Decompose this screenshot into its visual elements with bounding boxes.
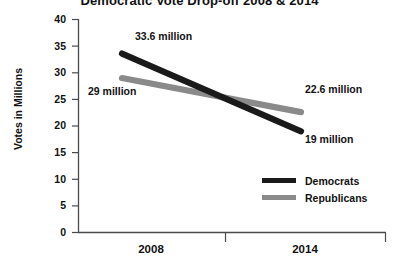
x-axis-ticks <box>226 233 386 243</box>
data-label-republicans-2014: 22.6 million <box>305 83 362 95</box>
y-tick-label-25: 25 <box>34 93 66 105</box>
legend-label-republicans: Republicans <box>305 192 367 204</box>
legend-item-democrats: Democrats <box>262 172 367 189</box>
y-tick-label-35: 35 <box>34 40 66 52</box>
series-line-democrats <box>122 54 301 132</box>
y-tick-label-30: 30 <box>34 66 66 78</box>
y-tick-label-20: 20 <box>34 119 66 131</box>
y-tick-label-5: 5 <box>34 199 66 211</box>
data-label-democrats-2014: 19 million <box>305 133 353 145</box>
legend: Democrats Republicans <box>262 172 367 206</box>
data-label-republicans-2008: 29 million <box>88 85 136 97</box>
x-tick-label-2008: 2008 <box>121 243 181 255</box>
legend-item-republicans: Republicans <box>262 189 367 206</box>
y-tick-label-0: 0 <box>34 226 66 238</box>
chart-container: Democratic Vote Drop-off 2008 & 2014 Vot… <box>0 0 399 257</box>
x-tick-label-2014: 2014 <box>275 243 335 255</box>
y-tick-label-40: 40 <box>34 13 66 25</box>
y-axis-ticks <box>72 20 78 233</box>
legend-swatch-republicans-icon <box>262 195 296 200</box>
y-tick-label-15: 15 <box>34 146 66 158</box>
y-tick-label-10: 10 <box>34 173 66 185</box>
legend-label-democrats: Democrats <box>305 175 359 187</box>
data-label-democrats-2008: 33.6 million <box>135 30 192 42</box>
legend-swatch-democrats-icon <box>262 178 296 183</box>
